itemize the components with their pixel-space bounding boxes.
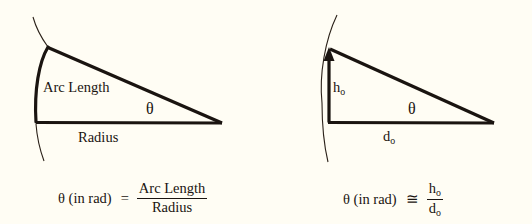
fraction-left: Arc Length Radius bbox=[137, 181, 207, 215]
right-panel-small-angle: ho do θ θ (in rad) ≅ ho do bbox=[266, 0, 532, 224]
label-theta-left: θ bbox=[146, 101, 154, 117]
fraction-numerator-subscript-right: o bbox=[436, 187, 441, 198]
equation-arc-length: θ (in rad) = Arc Length Radius bbox=[58, 181, 207, 215]
radius-line bbox=[36, 123, 222, 124]
equation-lhs-left: θ (in rad) bbox=[58, 190, 112, 207]
right-diagram bbox=[266, 0, 532, 175]
label-object-distance: do bbox=[383, 129, 395, 146]
equation-operator-left: = bbox=[121, 190, 129, 207]
label-theta-right: θ bbox=[408, 101, 416, 117]
arc-extension-top bbox=[33, 17, 48, 47]
left-diagram bbox=[0, 0, 266, 175]
fraction-denominator-left: Radius bbox=[150, 199, 194, 216]
distance-line bbox=[328, 123, 494, 124]
fraction-denominator-subscript-right: o bbox=[436, 207, 441, 218]
arc-extension-bottom-right bbox=[322, 103, 328, 162]
fraction-denominator-base-right: d bbox=[429, 200, 436, 216]
label-arc-length: Arc Length bbox=[43, 80, 109, 95]
equation-small-angle: θ (in rad) ≅ ho do bbox=[343, 181, 443, 219]
arc-extension-bottom bbox=[36, 124, 44, 161]
fraction-right: ho do bbox=[427, 181, 443, 219]
label-object-distance-subscript: o bbox=[390, 135, 395, 146]
left-panel-arc-length: Arc Length Radius θ θ (in rad) = Arc Len… bbox=[0, 0, 266, 224]
fraction-numerator-base-right: h bbox=[429, 180, 436, 196]
label-radius: Radius bbox=[78, 130, 118, 145]
fraction-denominator-right: do bbox=[427, 200, 443, 218]
fraction-numerator-right: ho bbox=[427, 181, 443, 199]
equation-operator-right: ≅ bbox=[406, 191, 419, 208]
fraction-numerator-left: Arc Length bbox=[137, 181, 207, 198]
label-object-height: ho bbox=[333, 80, 345, 97]
physics-figure: Arc Length Radius θ θ (in rad) = Arc Len… bbox=[0, 0, 532, 224]
label-object-height-subscript: o bbox=[340, 86, 345, 97]
equation-lhs-right: θ (in rad) bbox=[343, 191, 397, 208]
